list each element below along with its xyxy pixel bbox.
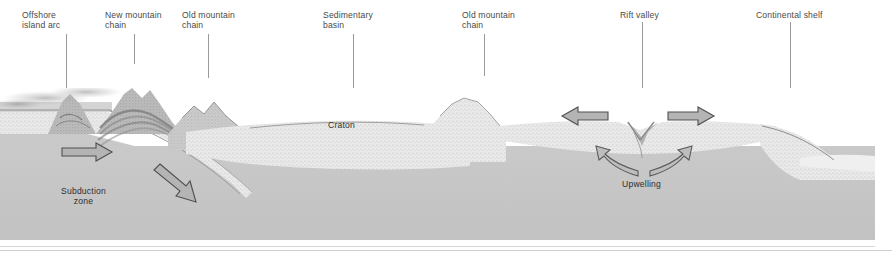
inline-label-upwelling: Upwelling: [622, 179, 661, 189]
inline-label-subduction-zone: Subduction zone: [61, 186, 106, 206]
callout-label-rift-valley: Rift valley: [620, 10, 659, 20]
diagram-canvas: Offshore island arcNew mountain chainOld…: [0, 0, 892, 265]
leader-line-new-mountain-chain: [134, 34, 135, 64]
callout-label-old-mountain-chain-right: Old mountain chain: [462, 10, 515, 31]
leader-line-continental-shelf: [790, 22, 791, 98]
leader-line-old-mountain-chain-right: [484, 34, 485, 76]
callout-label-offshore-island-arc: Offshore island arc: [22, 10, 60, 31]
leader-line-rift-valley: [642, 22, 643, 98]
cross-section-artwork: [0, 88, 875, 240]
callout-label-old-mountain-chain-left: Old mountain chain: [182, 10, 235, 31]
cross-section-body: [0, 88, 875, 240]
callout-label-sedimentary-basin: Sedimentary basin: [323, 10, 373, 31]
leader-line-old-mountain-chain-left: [208, 34, 209, 78]
callout-label-new-mountain-chain: New mountain chain: [105, 10, 162, 31]
inline-label-craton: Craton: [328, 120, 355, 130]
page-rule-bottom: [0, 250, 892, 251]
page-rule-top: [0, 246, 875, 247]
callout-label-continental-shelf: Continental shelf: [756, 10, 823, 20]
